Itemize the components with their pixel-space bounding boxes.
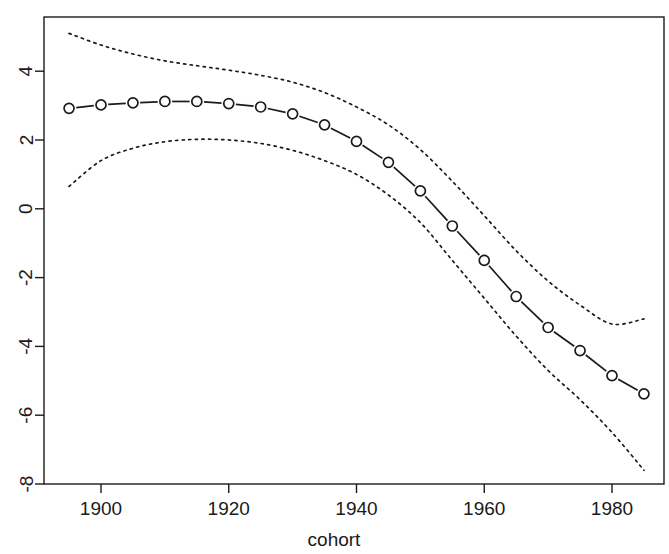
chart-background [0, 0, 669, 554]
x-tick-label: 1900 [80, 498, 122, 519]
x-tick-label: 1920 [208, 498, 250, 519]
data-point-marker [320, 120, 330, 130]
data-point-marker [543, 322, 553, 332]
y-tick-label: -6 [16, 407, 37, 424]
data-point-marker [479, 255, 489, 265]
data-point-marker [511, 292, 521, 302]
chart-container: 19001920194019601980 420-2-4-6-8 cohort [0, 0, 669, 554]
x-tick-label: 1980 [591, 498, 633, 519]
data-point-marker [64, 103, 74, 113]
estimate-line-segment [108, 103, 126, 104]
data-point-marker [192, 96, 202, 106]
data-point-marker [607, 371, 617, 381]
data-point-marker [352, 136, 362, 146]
data-point-marker [415, 186, 425, 196]
y-tick-label: 0 [16, 204, 37, 215]
estimate-line-segment [140, 102, 158, 103]
y-tick-label: 2 [16, 135, 37, 146]
x-axis-title: cohort [308, 529, 362, 550]
data-point-marker [128, 98, 138, 108]
chart-plot-area: 19001920194019601980 420-2-4-6-8 cohort [0, 0, 669, 554]
data-point-marker [447, 221, 457, 231]
data-point-marker [160, 96, 170, 106]
data-point-marker [256, 102, 266, 112]
y-tick-label: -4 [16, 338, 37, 355]
x-tick-label: 1960 [463, 498, 505, 519]
x-tick-label: 1940 [335, 498, 377, 519]
y-tick-label: -2 [16, 269, 37, 286]
data-point-marker [575, 346, 585, 356]
data-point-marker [96, 100, 106, 110]
data-point-marker [224, 99, 234, 109]
data-point-marker [639, 389, 649, 399]
estimate-line-segment [204, 102, 222, 103]
data-point-marker [383, 157, 393, 167]
data-point-marker [288, 109, 298, 119]
y-tick-label: 4 [16, 65, 37, 76]
y-tick-label: -8 [16, 476, 37, 493]
